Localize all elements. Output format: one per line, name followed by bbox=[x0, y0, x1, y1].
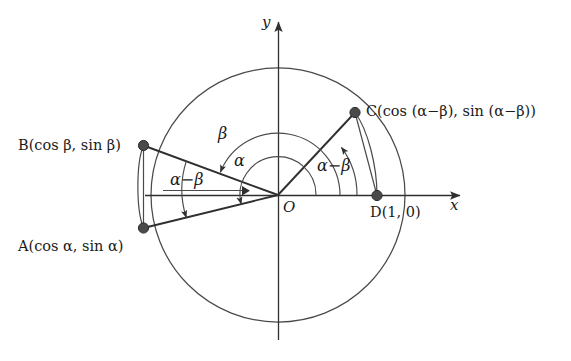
angle-label-alpha-minus-beta-right: α−β bbox=[317, 158, 350, 174]
radius-OB bbox=[144, 146, 279, 196]
point-dot-C bbox=[350, 107, 360, 117]
trigonometry-unit-circle-figure: B(cos β, sin β) A(cos α, sin α) C(cos (α… bbox=[0, 0, 571, 361]
x-axis-label: x bbox=[450, 198, 458, 213]
point-dot-A bbox=[138, 223, 148, 233]
y-axis-label: y bbox=[262, 15, 270, 30]
point-label-B: B(cos β, sin β) bbox=[18, 138, 121, 153]
origin-label: O bbox=[283, 200, 295, 215]
point-label-C: C(cos (α−β), sin (α−β)) bbox=[366, 104, 536, 119]
guide-segment-arrowhead bbox=[242, 186, 250, 195]
point-dot-B bbox=[138, 140, 148, 150]
figure-canvas bbox=[0, 0, 571, 361]
angle-label-alpha-minus-beta-left: α−β bbox=[170, 172, 203, 188]
point-dot-D bbox=[372, 190, 382, 200]
angle-label-alpha: α bbox=[234, 153, 245, 169]
point-label-A: A(cos α, sin α) bbox=[18, 239, 124, 254]
point-label-D: D(1, 0) bbox=[370, 205, 421, 220]
radius-OA bbox=[144, 195, 279, 228]
angle-label-beta: β bbox=[218, 126, 227, 142]
radius-OC bbox=[278, 113, 355, 196]
chord-CD bbox=[355, 113, 377, 196]
chord-AB-companion-arc bbox=[138, 146, 144, 229]
